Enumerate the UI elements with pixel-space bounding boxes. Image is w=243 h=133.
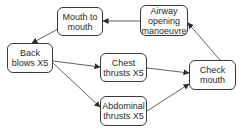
edge-abdominal-thrusts-to-check-mouth	[147, 84, 189, 111]
node-mouth-to-mouth: Mouth to mouth	[57, 7, 103, 36]
node-airway-opening-manoeuvre: Airway opening manoeuvre	[140, 5, 188, 36]
node-chest-thrusts: Chest thrusts X5	[100, 53, 147, 82]
edge-chest-thrusts-to-check-mouth	[147, 68, 189, 73]
node-abdominal-thrusts: Abdominal thrusts X5	[100, 96, 147, 126]
node-label-line: Back	[12, 48, 49, 58]
edge-mouth-to-mouth-to-back-blows	[32, 29, 58, 43]
node-label-line: Check	[200, 65, 226, 75]
node-label-line: Airway	[141, 6, 186, 16]
edge-back-blows-to-abdominal-thrusts	[53, 63, 100, 107]
node-label-line: Chest	[103, 58, 144, 68]
node-label-line: Abdominal	[102, 101, 145, 111]
node-label-line: Mouth to	[62, 12, 97, 22]
node-label-line: manoeuvre	[141, 26, 186, 36]
node-label-line: thrusts X5	[103, 68, 144, 78]
node-label-line: thrusts X5	[102, 111, 145, 121]
edge-check-mouth-to-airway-opening	[188, 23, 220, 60]
node-label-line: mouth	[200, 75, 226, 85]
edge-back-blows-to-chest-thrusts	[53, 61, 100, 67]
node-back-blows: Back blows X5	[7, 43, 53, 73]
node-label-line: opening	[141, 16, 186, 26]
node-label-line: blows X5	[12, 58, 49, 68]
flowchart-canvas: Mouth to mouth Airway opening manoeuvre …	[0, 0, 243, 133]
node-check-mouth: Check mouth	[189, 60, 236, 90]
node-label-line: mouth	[62, 22, 97, 32]
